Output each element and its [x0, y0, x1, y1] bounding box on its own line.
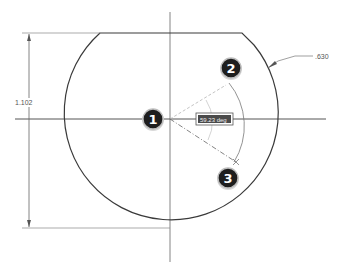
angle-dimension-label[interactable]: 59.23 deg: [196, 113, 233, 125]
endpoint-marker-icon[interactable]: [233, 159, 239, 165]
radius-arrow-icon: [268, 61, 277, 68]
callout-1: 1: [142, 109, 164, 131]
callout-3-number: 3: [224, 171, 233, 186]
callout-3: 3: [217, 168, 239, 190]
height-dimension-label[interactable]: 1.102: [15, 99, 33, 106]
radius-dimension-label[interactable]: .630: [315, 53, 329, 60]
callout-2: 2: [220, 58, 242, 80]
cad-sketch-canvas[interactable]: 1.102 .630 59.23 deg 1 2 3: [0, 0, 338, 271]
angle-dimension-value: 59.23 deg: [200, 117, 227, 123]
part-profile[interactable]: [64, 33, 278, 220]
callout-1-number: 1: [149, 112, 158, 127]
dim-arrow-down-icon: [27, 220, 31, 227]
angle-reference-line-lower[interactable]: [170, 119, 236, 162]
dim-arrow-up-icon: [27, 34, 31, 41]
callout-2-number: 2: [227, 61, 236, 76]
